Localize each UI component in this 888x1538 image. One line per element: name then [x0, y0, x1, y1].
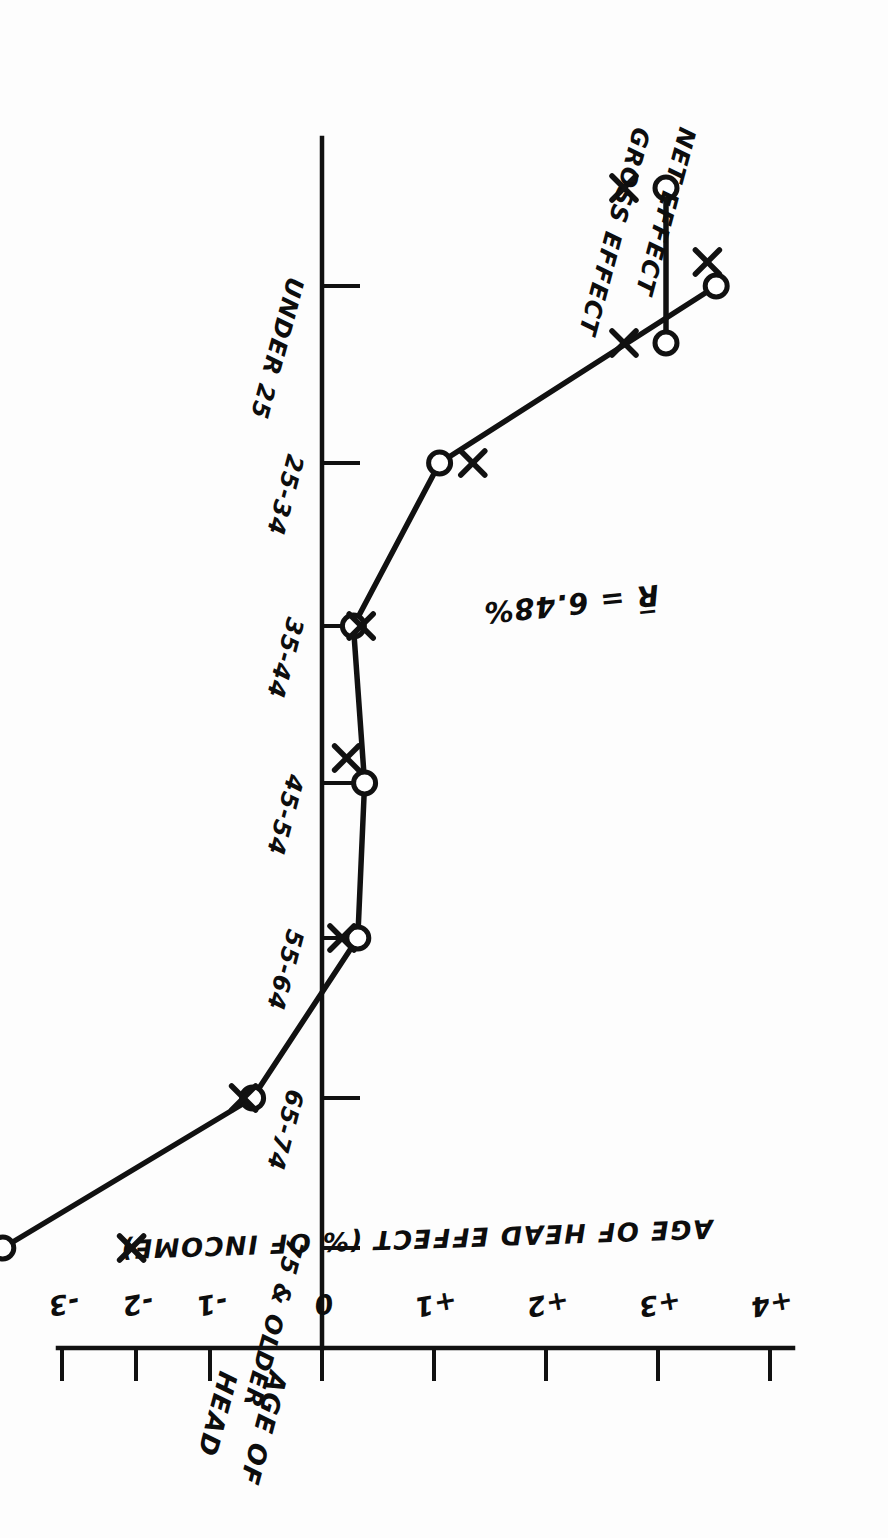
- tick-label-plus2: +2: [524, 1285, 571, 1323]
- legend-label-gross-effect: GROSS EFFECT: [573, 124, 656, 339]
- line-chart: +4 +3 +2 +1 0 -1 -2 -3 AGE OF HEAD EFFEC…: [0, 0, 888, 1538]
- net-effect-point-75-older: [0, 1237, 14, 1259]
- category-axis-title-line2: HEAD: [192, 1368, 243, 1460]
- value-axis-title: AGE OF HEAD EFFECT (% OF INCOME): [119, 1214, 715, 1265]
- tick-label-plus4: +4: [748, 1285, 795, 1323]
- category-label-55-64: 55-64: [261, 926, 309, 1013]
- gross-effect-markers: [120, 250, 720, 1260]
- legend-x-top: [612, 331, 636, 355]
- tick-label-minus3: -3: [46, 1286, 82, 1322]
- net-effect-point-25-34: [429, 452, 451, 474]
- category-label-45-54: 45-54: [261, 770, 310, 858]
- legend-circle-top: [655, 332, 677, 354]
- net-effect-point-under-25: [705, 275, 727, 297]
- gross-effect-point-45-54: [335, 746, 359, 770]
- value-axis: [58, 1348, 793, 1381]
- category-label-25-34: 25-34: [261, 451, 309, 538]
- tick-label-plus1: +1: [412, 1285, 459, 1323]
- category-axis: [322, 138, 360, 1348]
- category-label-under-25: UNDER 25: [244, 274, 309, 422]
- net-effect-line: [3, 286, 716, 1248]
- tick-label-plus3: +3: [636, 1285, 683, 1323]
- figure-page: +4 +3 +2 +1 0 -1 -2 -3 AGE OF HEAD EFFEC…: [0, 0, 888, 1538]
- category-label-35-44: 35-44: [261, 614, 309, 701]
- tick-label-minus2: -2: [120, 1286, 156, 1322]
- rotated-figure-container: +4 +3 +2 +1 0 -1 -2 -3 AGE OF HEAD EFFEC…: [0, 0, 888, 1538]
- r-bar-annotation: R̅ = 6.48%: [482, 578, 661, 631]
- chart-legend: NET EFFECT GROSS EFFECT: [573, 124, 702, 355]
- tick-label-minus1: -1: [194, 1286, 230, 1322]
- tick-label-zero: 0: [311, 1287, 335, 1321]
- value-tick-labels: +4 +3 +2 +1 0 -1 -2 -3: [46, 1285, 796, 1323]
- category-label-65-74: 65-74: [261, 1086, 309, 1173]
- value-axis-ticks: [62, 1348, 770, 1381]
- gross-effect-point-25-34: [461, 451, 485, 475]
- gross-effect-point-under-25: [695, 250, 719, 274]
- net-effect-point-45-54: [354, 772, 376, 794]
